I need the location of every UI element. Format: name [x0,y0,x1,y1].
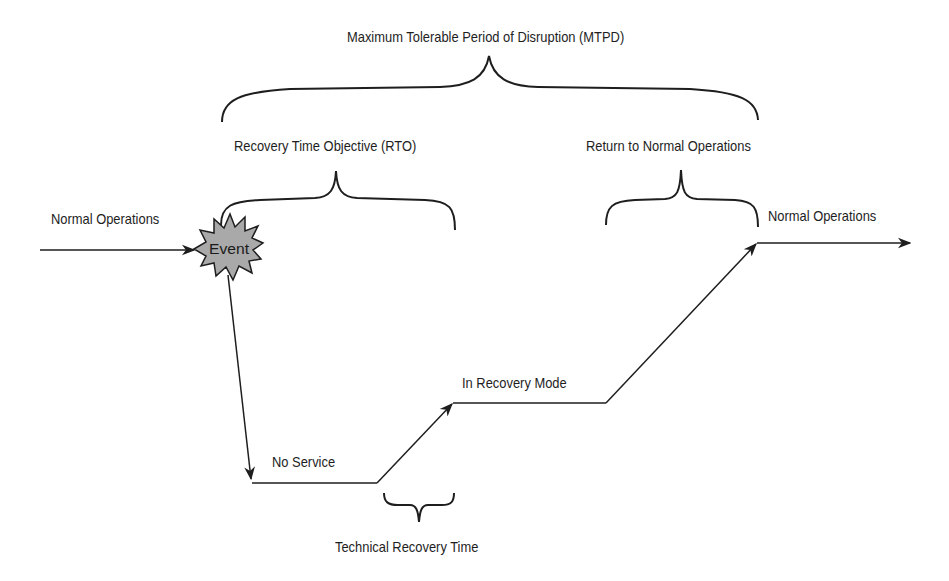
technical-recovery-time-label: Technical Recovery Time [335,538,478,555]
in-recovery-mode-label: In Recovery Mode [462,374,567,391]
diagram-graphics: Event [0,0,949,581]
return-ramp-arrow [606,244,756,403]
normal-operations-before-label: Normal Operations [51,210,159,227]
event-to-no-service-arrow [228,275,251,479]
rto-brace [221,171,455,230]
mtpd-diagram: Event Maximum Tolerable Period of Disrup… [0,0,949,581]
event-label: Event [209,240,250,257]
event-starburst-icon: Event [194,214,263,280]
technical-recovery-brace [384,493,454,522]
rto-label: Recovery Time Objective (RTO) [234,137,416,154]
mtpd-label: Maximum Tolerable Period of Disruption (… [347,28,624,45]
mtpd-brace [222,56,758,122]
return-to-normal-brace [606,170,758,227]
return-to-normal-label: Return to Normal Operations [586,137,751,154]
no-service-label: No Service [272,453,335,470]
recovery-ramp-arrow [377,404,452,483]
normal-operations-after-label: Normal Operations [768,207,876,224]
